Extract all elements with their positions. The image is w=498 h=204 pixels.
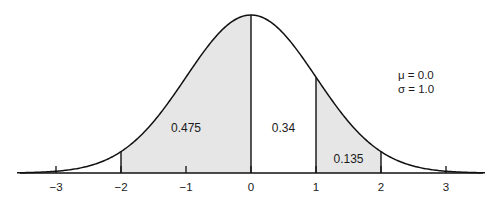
region-probability-label: 0.34	[272, 121, 295, 135]
region-probability-label: 0.475	[171, 121, 201, 135]
region-probability-label: 0.135	[333, 152, 363, 166]
shaded-region	[121, 15, 251, 173]
x-tick-label: 3	[443, 181, 449, 193]
x-tick-label: 2	[378, 181, 384, 193]
x-tick-label: 0	[248, 181, 254, 193]
mu-label: μ = 0.0	[398, 69, 434, 81]
sigma-label: σ = 1.0	[398, 83, 434, 95]
x-tick-label: −3	[49, 181, 62, 193]
x-axis-ticks	[56, 166, 446, 173]
normal-distribution-chart	[0, 0, 498, 204]
x-tick-label: −2	[114, 181, 127, 193]
x-tick-label: 1	[313, 181, 319, 193]
x-tick-label: −1	[179, 181, 192, 193]
